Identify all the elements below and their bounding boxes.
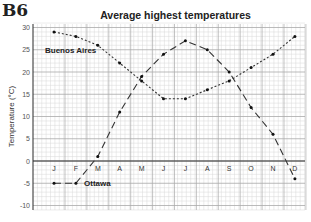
x-tick-label: S bbox=[227, 165, 232, 172]
data-point bbox=[140, 75, 143, 78]
data-point bbox=[118, 62, 121, 65]
data-point bbox=[74, 182, 77, 185]
data-point bbox=[293, 177, 296, 180]
data-point bbox=[118, 111, 121, 114]
data-point bbox=[228, 71, 231, 74]
data-point bbox=[184, 39, 187, 42]
y-tick-label: 25 bbox=[22, 46, 30, 53]
x-tick-label: N bbox=[270, 165, 275, 172]
series-label-ottawa: Ottawa bbox=[84, 179, 111, 188]
x-tick-label: J bbox=[184, 165, 188, 172]
x-tick-label: J bbox=[162, 165, 166, 172]
x-tick-label: A bbox=[205, 165, 210, 172]
y-tick-label: 15 bbox=[22, 91, 30, 98]
data-point bbox=[250, 106, 253, 109]
data-point bbox=[53, 182, 56, 185]
x-tick-label: M bbox=[95, 165, 101, 172]
data-point bbox=[184, 97, 187, 100]
y-tick-label: 20 bbox=[22, 69, 30, 76]
data-point bbox=[228, 79, 231, 82]
y-tick-label: 30 bbox=[22, 24, 30, 31]
y-tick-label: 5 bbox=[26, 135, 30, 142]
x-tick-label: O bbox=[248, 165, 254, 172]
data-point bbox=[140, 79, 143, 82]
series-label-buenos-aires: Buenos Aires bbox=[45, 46, 97, 55]
x-tick-label: F bbox=[74, 165, 78, 172]
y-axis-label: Temperature (°C) bbox=[7, 85, 16, 147]
data-point bbox=[250, 66, 253, 69]
data-point bbox=[272, 133, 275, 136]
data-point bbox=[96, 155, 99, 158]
data-point bbox=[293, 35, 296, 38]
data-point bbox=[162, 53, 165, 56]
data-point bbox=[53, 30, 56, 33]
x-tick-label: A bbox=[117, 165, 122, 172]
y-tick-label: -10 bbox=[20, 202, 30, 209]
data-point bbox=[162, 97, 165, 100]
data-point bbox=[272, 53, 275, 56]
data-point bbox=[96, 44, 99, 47]
x-tick-label: J bbox=[52, 165, 56, 172]
y-tick-label: 0 bbox=[26, 158, 30, 165]
y-tick-label: 10 bbox=[22, 113, 30, 120]
data-point bbox=[206, 48, 209, 51]
data-point bbox=[74, 35, 77, 38]
y-tick-label: -5 bbox=[24, 180, 30, 187]
x-tick-label: M bbox=[139, 165, 145, 172]
x-tick-label: D bbox=[292, 165, 297, 172]
data-point bbox=[206, 88, 209, 91]
line-chart: -10-5051015202530JFMAMJJASONDTemperature… bbox=[0, 0, 311, 222]
